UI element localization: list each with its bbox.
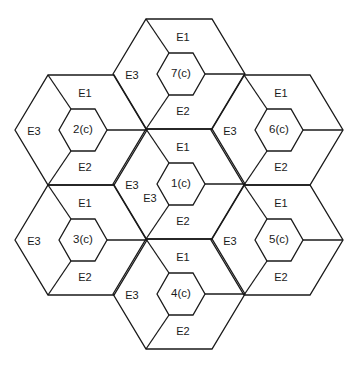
sector-divider <box>146 205 169 239</box>
sector-divider <box>146 129 169 163</box>
sector-e2-label: E2 <box>274 271 287 283</box>
sector-divider <box>146 95 169 129</box>
hex-cell: 3(c)E1E2E3 <box>15 185 147 295</box>
sector-e2-label: E2 <box>78 271 91 283</box>
hex-cell: 1(c)E1E2E3E3 <box>113 129 245 239</box>
sector-divider <box>244 75 267 109</box>
sector-divider <box>48 151 71 185</box>
cell-id-label: 6(c) <box>269 123 289 135</box>
sector-e3-label: E3 <box>27 235 40 247</box>
hex-cell: 5(c)E1E2E3 <box>211 185 343 295</box>
sector-e1-label: E1 <box>274 87 287 99</box>
sector-e3-label: E3 <box>125 69 138 81</box>
cell-id-label: 3(c) <box>73 233 93 245</box>
sector-e1-label: E1 <box>176 141 189 153</box>
sector-e2-label: E2 <box>176 215 189 227</box>
sector-e1-label: E1 <box>176 251 189 263</box>
sector-e2-label: E2 <box>274 161 287 173</box>
cell-id-label: 7(c) <box>171 67 191 79</box>
sector-divider <box>244 185 267 219</box>
sector-e3-label: E3 <box>27 125 40 137</box>
sector-e3-extra-label: E3 <box>143 192 156 204</box>
sector-e1-label: E1 <box>274 197 287 209</box>
sector-e1-label: E1 <box>78 197 91 209</box>
sector-divider <box>48 261 71 295</box>
sector-divider <box>244 261 267 295</box>
hex-cell: 2(c)E1E2E3 <box>15 75 147 185</box>
sector-e2-label: E2 <box>176 325 189 337</box>
cell-id-label: 5(c) <box>269 233 289 245</box>
sector-divider <box>244 151 267 185</box>
cell-id-label: 2(c) <box>73 123 93 135</box>
sector-divider <box>48 185 71 219</box>
cell-id-label: 1(c) <box>171 177 191 189</box>
sector-e2-label: E2 <box>78 161 91 173</box>
sector-e3-label: E3 <box>125 179 138 191</box>
sector-divider <box>146 19 169 53</box>
sector-divider <box>146 315 169 349</box>
hex-cell: 6(c)E1E2E3 <box>211 75 343 185</box>
hex-cell-diagram: 7(c)E1E2E32(c)E1E2E36(c)E1E2E31(c)E1E2E3… <box>0 0 358 365</box>
sector-divider <box>48 75 71 109</box>
cell-id-label: 4(c) <box>171 287 191 299</box>
sector-divider <box>146 239 169 273</box>
sector-e3-label: E3 <box>223 235 236 247</box>
sector-e2-label: E2 <box>176 105 189 117</box>
hex-cell: 7(c)E1E2E3 <box>113 19 245 129</box>
sector-e1-label: E1 <box>78 87 91 99</box>
hex-cell: 4(c)E1E2E3 <box>113 239 245 349</box>
sector-e3-label: E3 <box>125 289 138 301</box>
sector-e3-label: E3 <box>223 125 236 137</box>
sector-e1-label: E1 <box>176 31 189 43</box>
